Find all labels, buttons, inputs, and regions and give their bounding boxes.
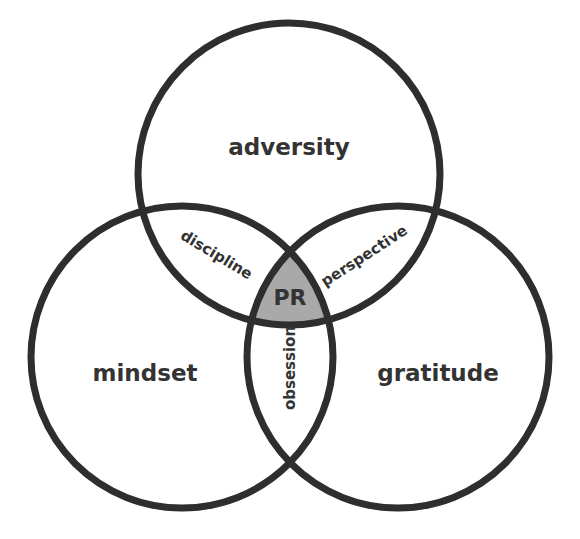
venn-diagram: adversity mindset gratitude discipline p…: [0, 0, 580, 539]
label-discipline: discipline: [177, 226, 255, 283]
label-obsession: obsession: [281, 326, 299, 410]
label-pr: PR: [273, 285, 306, 310]
label-adversity: adversity: [228, 134, 349, 160]
label-gratitude: gratitude: [377, 360, 499, 386]
label-mindset: mindset: [93, 360, 198, 386]
